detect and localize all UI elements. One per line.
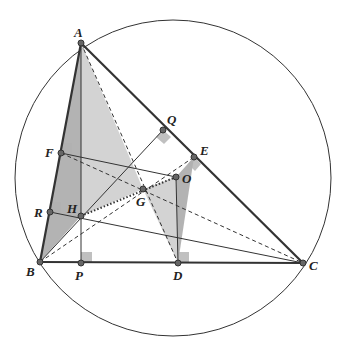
point-C	[300, 260, 306, 266]
label-E: E	[199, 143, 209, 158]
label-O: O	[182, 171, 192, 186]
point-A	[78, 40, 84, 46]
point-G	[140, 186, 146, 192]
label-H: H	[66, 201, 78, 216]
point-D	[175, 260, 181, 266]
geometry-diagram: A B C D E F G H O P Q R	[0, 0, 339, 350]
point-F	[58, 150, 64, 156]
point-O	[173, 174, 179, 180]
point-B	[37, 259, 43, 265]
label-C: C	[309, 258, 318, 273]
point-H	[78, 213, 84, 219]
label-A: A	[73, 25, 83, 40]
label-R: R	[33, 205, 43, 220]
point-Q	[160, 127, 166, 133]
point-P	[78, 260, 84, 266]
label-F: F	[44, 145, 54, 160]
label-G: G	[136, 194, 146, 209]
label-B: B	[25, 264, 35, 279]
shaded-triangle-ABG	[81, 43, 143, 216]
label-D: D	[172, 268, 183, 283]
label-Q: Q	[167, 112, 177, 127]
point-E	[191, 154, 197, 160]
point-R	[47, 209, 53, 215]
label-P: P	[75, 268, 84, 283]
